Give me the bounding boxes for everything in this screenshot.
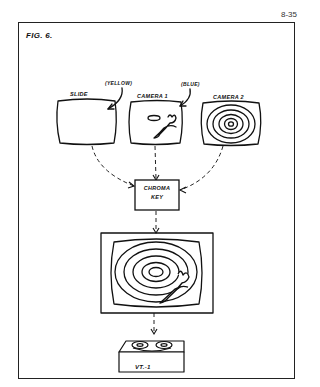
camera1-label: CAMERA 1	[137, 93, 168, 99]
slide-label: SLIDE	[70, 91, 88, 97]
camera2-label: CAMERA 2	[213, 94, 244, 100]
camera2-monitor	[201, 101, 261, 146]
camera2-to-chromakey-line	[180, 146, 223, 190]
slide-to-chromakey-line	[92, 146, 134, 186]
slide-monitor	[57, 99, 116, 145]
camera1-oval	[148, 116, 160, 121]
camera2-rings	[207, 105, 255, 143]
recorder-body	[119, 352, 184, 372]
output-monitor-casing	[101, 233, 213, 313]
recorder-top	[119, 341, 184, 352]
camera1-figure	[154, 115, 176, 138]
recorder-label: VT.-1	[135, 364, 151, 370]
chroma-key-line1: CHROMA	[135, 184, 179, 193]
output-rings	[115, 242, 197, 302]
chroma-key-line2: KEY	[135, 193, 179, 202]
chroma-key-label: CHROMA KEY	[135, 184, 179, 202]
slide-annotation: (YELLOW)	[105, 80, 132, 86]
camera1-to-chromakey-line	[155, 146, 156, 179]
camera1-annotation: (BLUE)	[181, 81, 200, 87]
